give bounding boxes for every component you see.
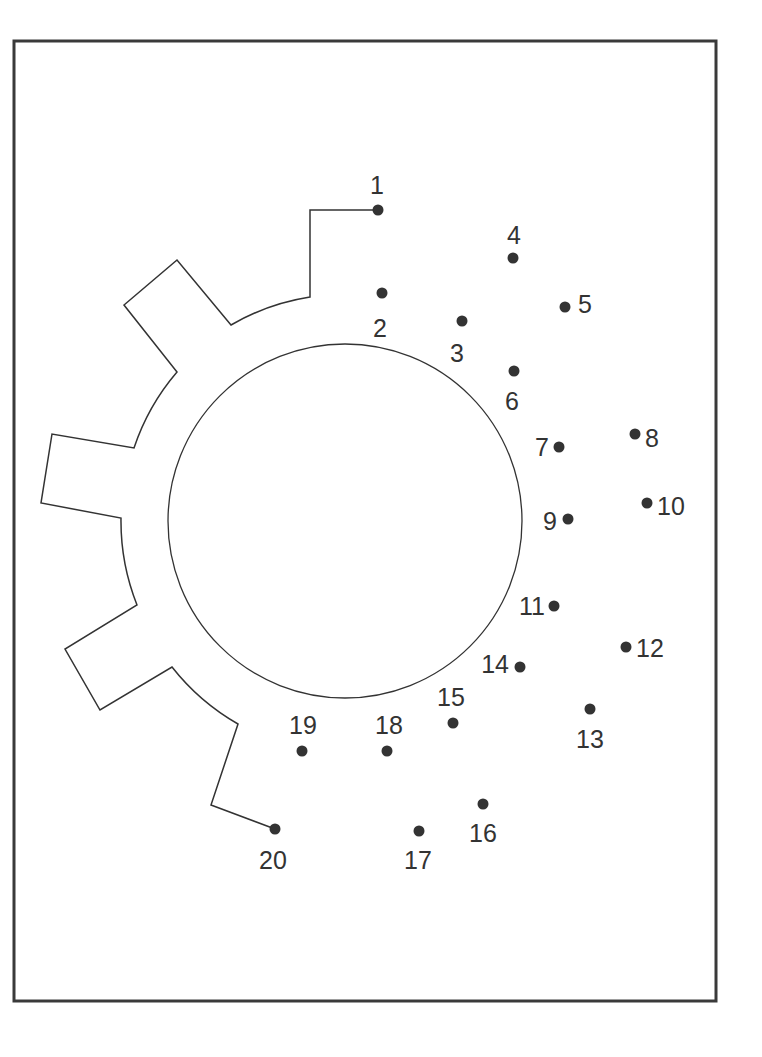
dot-marker bbox=[297, 746, 308, 757]
dot-number-label: 15 bbox=[437, 683, 465, 711]
dot-number-label: 13 bbox=[576, 725, 604, 753]
dot-marker bbox=[508, 253, 519, 264]
dot-marker bbox=[509, 366, 520, 377]
dot-number-label: 17 bbox=[404, 846, 432, 874]
dot-marker bbox=[382, 746, 393, 757]
dot-number-label: 7 bbox=[535, 433, 549, 461]
dot-number-label: 19 bbox=[289, 711, 317, 739]
dot-number-label: 9 bbox=[543, 507, 557, 535]
dot-number-label: 6 bbox=[505, 387, 519, 415]
dot-number-label: 2 bbox=[373, 314, 387, 342]
dot-marker bbox=[554, 442, 565, 453]
dot-number-label: 4 bbox=[507, 221, 521, 249]
dot-number-label: 8 bbox=[645, 424, 659, 452]
dot-marker bbox=[478, 799, 489, 810]
dot-marker bbox=[563, 514, 574, 525]
dot-number-label: 16 bbox=[469, 819, 497, 847]
dot-marker bbox=[549, 601, 560, 612]
dot-marker bbox=[270, 824, 281, 835]
dot-marker bbox=[642, 498, 653, 509]
dot-number-label: 20 bbox=[259, 846, 287, 874]
dot-number-label: 18 bbox=[375, 711, 403, 739]
dot-marker bbox=[373, 205, 384, 216]
dot-marker bbox=[515, 662, 526, 673]
dot-number-label: 1 bbox=[370, 171, 384, 199]
dot-marker bbox=[621, 642, 632, 653]
dot-number-label: 10 bbox=[657, 492, 685, 520]
worksheet-canvas: 1234567891011121314151617181920 bbox=[0, 0, 762, 1057]
dot-marker bbox=[457, 316, 468, 327]
dot-marker bbox=[630, 429, 641, 440]
dot-marker bbox=[377, 288, 388, 299]
dot-marker bbox=[448, 718, 459, 729]
dot-marker bbox=[560, 302, 571, 313]
dot-number-label: 14 bbox=[481, 650, 509, 678]
dot-marker bbox=[585, 704, 596, 715]
dot-number-label: 11 bbox=[519, 592, 545, 620]
dot-number-label: 3 bbox=[450, 339, 464, 367]
dot-number-label: 5 bbox=[578, 290, 592, 318]
dot-marker bbox=[414, 826, 425, 837]
page-frame bbox=[14, 41, 716, 1001]
dot-number-label: 12 bbox=[636, 634, 664, 662]
